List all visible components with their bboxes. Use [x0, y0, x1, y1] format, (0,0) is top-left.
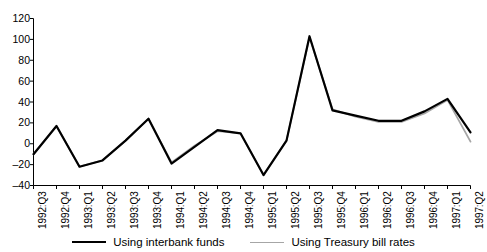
- x-tick-label: 1993:Q2: [107, 191, 117, 229]
- x-tick-label: 1995:Q3: [314, 191, 324, 229]
- x-tick-label: 1996:Q3: [406, 191, 416, 229]
- chart-legend: Using interbank funds Using Treasury bil…: [0, 233, 487, 251]
- x-tick-label: 1996:Q4: [429, 191, 439, 229]
- x-tick-label: 1994:Q3: [222, 191, 232, 229]
- x-tick-label: 1993:Q3: [130, 191, 140, 229]
- x-tick-label: 1992:Q3: [38, 191, 48, 229]
- legend-swatch-interbank-funds: [72, 241, 106, 243]
- x-tick-label: 1994:Q4: [245, 191, 255, 229]
- x-tick-label: 1994:Q1: [176, 191, 186, 229]
- x-tick-label: 1995:Q1: [268, 191, 278, 229]
- x-tick-label: 1996:Q1: [360, 191, 370, 229]
- x-tick-label: 1996:Q2: [383, 191, 393, 229]
- x-tick-label: 1997:Q1: [452, 191, 462, 229]
- x-tick-label: 1992:Q4: [61, 191, 71, 229]
- legend-label-interbank-funds: Using interbank funds: [113, 236, 224, 248]
- x-tick-label: 1995:Q4: [337, 191, 347, 229]
- legend-entry-interbank-funds: Using interbank funds: [72, 236, 224, 248]
- line-chart: 120100806040200–20–40 1992:Q31992:Q41993…: [0, 0, 487, 252]
- x-tick-label: 1997:Q2: [475, 191, 485, 229]
- x-tick-label: 1993:Q1: [84, 191, 94, 229]
- x-tick-label: 1994:Q2: [199, 191, 209, 229]
- legend-entry-treasury-bill-rates: Using Treasury bill rates: [250, 236, 414, 248]
- x-tick-label: 1995:Q2: [291, 191, 301, 229]
- legend-label-treasury-bill-rates: Using Treasury bill rates: [291, 236, 414, 248]
- x-axis-tick-labels: 1992:Q31992:Q41993:Q11993:Q21993:Q31993:…: [0, 0, 487, 252]
- legend-swatch-treasury-bill-rates: [250, 242, 284, 243]
- x-tick-label: 1993:Q4: [153, 191, 163, 229]
